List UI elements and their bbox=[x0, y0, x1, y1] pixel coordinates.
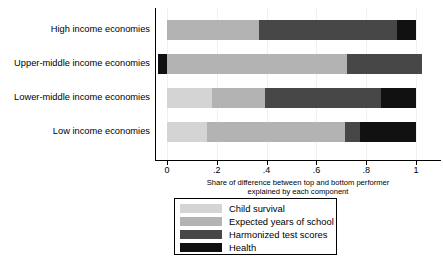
bar-segment bbox=[345, 122, 360, 142]
bar-segment bbox=[381, 88, 416, 108]
bar-segment bbox=[265, 88, 381, 108]
bar-row bbox=[155, 20, 441, 40]
bar-segment bbox=[207, 122, 345, 142]
bar-segment bbox=[360, 122, 416, 142]
legend-swatch-3 bbox=[180, 243, 222, 252]
x-tick-label-2: .4 bbox=[255, 165, 279, 175]
bar-segment bbox=[167, 88, 212, 108]
bar-row bbox=[155, 122, 441, 142]
legend-swatch-1 bbox=[180, 217, 222, 226]
legend: Child survivalExpected years of schoolHa… bbox=[174, 198, 337, 255]
legend-label: Child survival bbox=[229, 204, 285, 214]
legend-label: Harmonized test scores bbox=[229, 230, 327, 240]
bar-row bbox=[155, 54, 441, 74]
stacked-bar-chart: High income economies Upper-middle incom… bbox=[0, 0, 443, 261]
x-axis-title: Share of difference between top and bott… bbox=[155, 178, 441, 196]
plot-area bbox=[155, 8, 441, 160]
bar-row bbox=[155, 88, 441, 108]
legend-item[interactable]: Health bbox=[175, 241, 336, 254]
bar-segment bbox=[212, 88, 265, 108]
legend-label: Health bbox=[229, 243, 256, 253]
y-axis-label-2: Lower-middle income economies bbox=[2, 92, 150, 102]
x-axis-title-line1: Share of difference between top and bott… bbox=[155, 178, 441, 187]
y-axis-label-3: Low income economies bbox=[2, 126, 150, 136]
legend-item[interactable]: Child survival bbox=[175, 202, 336, 215]
legend-label: Expected years of school bbox=[229, 217, 334, 227]
y-axis-label-1: Upper-middle income economies bbox=[2, 58, 150, 68]
bar-segment bbox=[259, 20, 397, 40]
y-axis-label-0: High income economies bbox=[2, 24, 150, 34]
x-axis-line bbox=[155, 160, 441, 161]
x-tick-label-5: 1 bbox=[404, 165, 428, 175]
x-tick-label-3: .6 bbox=[304, 165, 328, 175]
bar-segment bbox=[397, 20, 416, 40]
bar-segment bbox=[167, 20, 259, 40]
bar-segment bbox=[167, 122, 207, 142]
x-tick-label-0: 0 bbox=[155, 165, 179, 175]
x-tick-label-4: .8 bbox=[354, 165, 378, 175]
x-axis-title-line2: explained by each component bbox=[155, 187, 441, 196]
legend-swatch-0 bbox=[180, 204, 222, 213]
bar-segment bbox=[167, 54, 347, 74]
legend-swatch-2 bbox=[180, 230, 222, 239]
legend-item[interactable]: Expected years of school bbox=[175, 215, 336, 228]
legend-item[interactable]: Harmonized test scores bbox=[175, 228, 336, 241]
bar-segment bbox=[158, 54, 167, 74]
bar-segment bbox=[347, 54, 422, 74]
x-tick-label-1: .2 bbox=[205, 165, 229, 175]
